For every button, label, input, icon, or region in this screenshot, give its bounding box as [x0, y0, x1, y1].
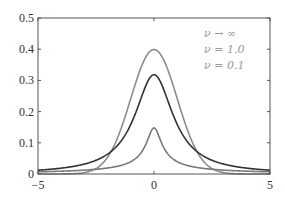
legend: ν → ∞ν = 1.0ν = 0.1: [204, 27, 244, 72]
series-line-nu-1p0: [38, 75, 270, 170]
legend-entry-nu-1p0: ν = 1.0: [204, 43, 244, 56]
y-tick-label: 0.3: [19, 73, 34, 87]
x-tick-label: −5: [32, 178, 45, 192]
y-tick-label: 0.4: [19, 42, 34, 56]
y-tick-label: 0.1: [19, 136, 34, 150]
student-t-chart: 00.10.20.30.40.5−505 ν → ∞ν = 1.0ν = 0.1: [0, 0, 285, 203]
axes-frame: [38, 18, 270, 174]
x-tick-label: 5: [267, 178, 273, 192]
x-tick-label: 0: [151, 178, 157, 192]
legend-entry-nu-to-inf: ν → ∞: [204, 27, 236, 40]
y-tick-label: 0.5: [19, 11, 34, 25]
series-line-nu-0p1: [38, 128, 270, 172]
legend-entry-nu-0p1: ν = 0.1: [204, 59, 244, 72]
ticks: [38, 18, 270, 174]
y-tick-label: 0.2: [19, 105, 34, 119]
